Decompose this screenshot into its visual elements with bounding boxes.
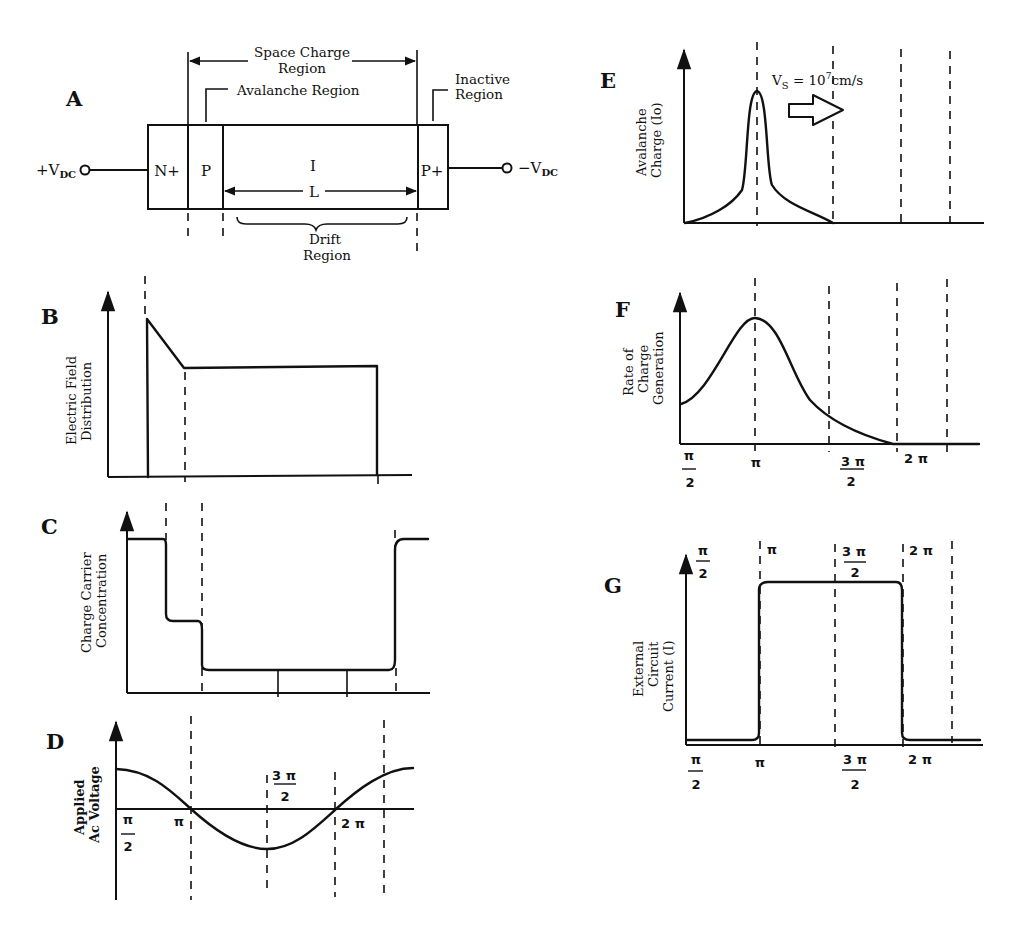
f-tick-pi2-den: 2 xyxy=(685,475,694,490)
g-top-tick-2pi: 2 π xyxy=(909,543,933,558)
right-terminal-icon xyxy=(503,164,512,173)
g-top-tick-pi2-num: π xyxy=(698,543,708,558)
b-field-curve xyxy=(147,319,377,477)
panel-c-carrier-concentration: C Charge Carrier Concentration xyxy=(41,503,430,698)
plus-vdc-label: +VDC xyxy=(36,161,76,180)
layer-p: P xyxy=(201,162,211,180)
space-charge-label-1: Space Charge xyxy=(254,44,350,60)
ylabel-f-3: Generation xyxy=(651,331,666,405)
d-tick-pi2-num: π xyxy=(123,812,133,827)
inactive-callout-line xyxy=(433,90,448,121)
vs-annotation: VS = 107cm/s xyxy=(771,71,863,91)
f-tick-3pi2-den: 2 xyxy=(846,474,855,489)
ylabel-b-1: Electric Field xyxy=(64,356,79,445)
ylabel-g-1: External xyxy=(631,641,646,697)
ylabel-e-2: Charge (Io) xyxy=(649,102,664,178)
panel-label-a: A xyxy=(65,86,83,111)
ylabel-b-2: Distribution xyxy=(79,361,94,441)
g-top-tick-3pi2-num: 3 π xyxy=(842,544,866,559)
panel-label-e: E xyxy=(600,68,616,93)
g-bottom-tick-pi2-den: 2 xyxy=(691,777,700,792)
panel-label-f: F xyxy=(615,297,630,322)
impatt-diode-figure: A Space Charge Region Avalanche Region I… xyxy=(0,0,1017,931)
inactive-label-2: Region xyxy=(455,86,503,102)
drift-label-1: Drift xyxy=(309,231,342,247)
g-top-tick-pi2-den: 2 xyxy=(698,566,707,581)
space-charge-label-2: Region xyxy=(278,60,326,76)
d-tick-2pi: 2 π xyxy=(341,816,365,831)
avalanche-callout-line xyxy=(206,89,228,122)
ylabel-g-3: Current (I) xyxy=(661,641,676,712)
ylabel-c-1: Charge Carrier xyxy=(79,552,94,653)
inactive-label-1: Inactive xyxy=(455,71,510,87)
layer-nplus: N+ xyxy=(154,162,180,180)
ylabel-d-1: Applied xyxy=(72,779,87,836)
d-tick-3pi2-num: 3 π xyxy=(272,768,296,783)
ylabel-f-1: Rate of xyxy=(621,347,636,396)
panel-d-applied-voltage: D Applied Ac Voltage π 2 π 3 π 2 2 π xyxy=(46,716,414,900)
avalanche-region-label: Avalanche Region xyxy=(236,82,360,98)
ylabel-g-2: Circuit xyxy=(646,641,661,687)
d-tick-3pi2-den: 2 xyxy=(280,789,289,804)
f-tick-3pi2-num: 3 π xyxy=(841,454,865,469)
d-tick-pi: π xyxy=(174,814,184,829)
panel-a-device-structure: A Space Charge Region Avalanche Region I… xyxy=(36,44,558,263)
drift-direction-arrow-icon xyxy=(789,95,843,125)
device-body xyxy=(148,125,448,209)
c-concentration-curve xyxy=(128,539,428,670)
panel-b-electric-field: B Electric Field Distribution xyxy=(41,276,412,484)
layer-i: I xyxy=(310,157,316,175)
panel-label-d: D xyxy=(46,729,64,754)
panel-f-charge-generation: F Rate of Charge Generation π 2 π 3 π 2 … xyxy=(615,278,979,490)
length-label: L xyxy=(309,183,319,201)
panel-e-avalanche-charge: E Avalanche Charge (Io) VS = 107cm/s xyxy=(600,42,984,226)
g-bottom-tick-pi: π xyxy=(755,755,765,770)
g-bottom-tick-3pi2-num: 3 π xyxy=(843,752,867,767)
drift-label-2: Region xyxy=(303,247,351,263)
g-current-curve xyxy=(687,582,980,740)
panel-label-c: C xyxy=(41,514,58,539)
ylabel-d-2: Ac Voltage xyxy=(87,766,102,844)
layer-pplus: P+ xyxy=(421,162,444,180)
g-bottom-tick-pi2-num: π xyxy=(691,752,701,767)
d-tick-pi2-den: 2 xyxy=(123,839,132,854)
panel-g-external-current: G External Circuit Current (I) π 2 π 3 π… xyxy=(604,541,983,792)
g-bottom-tick-2pi: 2 π xyxy=(908,752,932,767)
g-bottom-tick-3pi2-den: 2 xyxy=(850,777,859,792)
ylabel-c-2: Concentration xyxy=(94,553,109,648)
panel-label-g: G xyxy=(604,573,622,598)
b-x-axis xyxy=(108,475,412,477)
ylabel-e-1: Avalanche xyxy=(634,108,649,177)
minus-vdc-label: −VDC xyxy=(518,159,558,178)
f-tick-pi: π xyxy=(751,455,761,470)
f-tick-pi2-num: π xyxy=(684,448,694,463)
ylabel-f-2: Charge xyxy=(636,344,651,393)
drift-brace xyxy=(237,217,407,230)
left-terminal-icon xyxy=(81,166,90,175)
f-tick-2pi: 2 π xyxy=(904,451,928,466)
f-generation-curve xyxy=(681,318,979,444)
g-top-tick-3pi2-den: 2 xyxy=(850,565,859,580)
g-top-tick-pi: π xyxy=(767,542,777,557)
panel-label-b: B xyxy=(41,304,59,329)
